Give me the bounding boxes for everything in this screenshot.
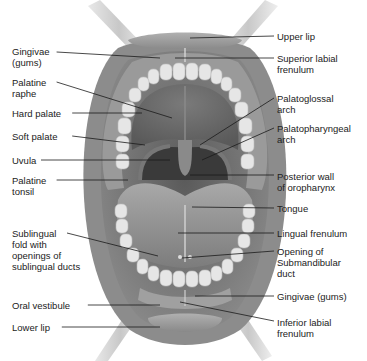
label-uvula: Uvula	[12, 155, 36, 166]
label-posterior-wall-oropharynx: Posterior wall of oropharynx	[277, 171, 335, 193]
label-palatine-tonsil: Palatine tonsil	[12, 175, 46, 197]
label-opening-submandibular-duct: Opening of Submandibular duct	[277, 246, 341, 279]
label-palatopharyngeal-arch: Palatopharyngeal arch	[277, 123, 351, 145]
label-oral-vestibule: Oral vestibule	[12, 300, 70, 311]
label-gingivae-upper: Gingivae (gums)	[12, 46, 50, 68]
label-upper-lip: Upper lip	[277, 31, 315, 42]
label-palatine-raphe: Palatine raphe	[12, 77, 46, 99]
label-tongue: Tongue	[277, 203, 308, 214]
label-superior-labial-frenulum: Superior labial frenulum	[277, 53, 338, 75]
label-soft-palate: Soft palate	[12, 131, 57, 142]
upper-lip	[128, 33, 242, 50]
label-lower-lip: Lower lip	[12, 322, 50, 333]
label-palatoglossal-arch: Palatoglossal arch	[277, 93, 334, 115]
label-hard-palate: Hard palate	[12, 108, 61, 119]
label-gingivae-lower: Gingivae (gums)	[277, 291, 347, 302]
label-lingual-frenulum: Lingual frenulum	[277, 228, 347, 239]
oral-cavity-diagram: Gingivae (gums)Palatine rapheHard palate…	[0, 0, 367, 361]
label-sublingual-fold: Sublingual fold with openings of subling…	[12, 228, 80, 272]
label-inferior-labial-frenulum: Inferior labial frenulum	[277, 317, 331, 339]
